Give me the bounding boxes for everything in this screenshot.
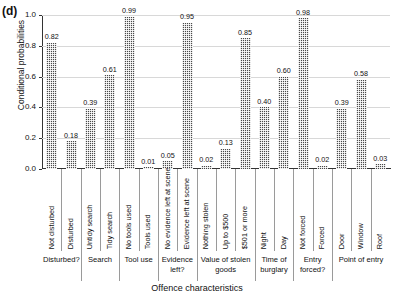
bar	[220, 149, 231, 169]
category-label-cell: Night	[255, 169, 274, 251]
group-label: Value of stolen goods	[197, 255, 255, 274]
category-label: Door	[338, 233, 345, 249]
bar-value-label: 0.39	[327, 99, 357, 106]
y-tick-label: 0.6	[14, 73, 36, 81]
bar-value-label: 0.01	[133, 158, 163, 165]
gridline	[42, 46, 390, 47]
category-separator	[235, 169, 236, 251]
bar-value-label: 0.85	[230, 29, 260, 36]
group-separator	[293, 169, 294, 281]
category-label-cell: Evidence left at scene	[177, 169, 196, 251]
group-label: Tool use	[119, 255, 158, 265]
y-axis-title: Conditional probabilities	[16, 0, 26, 140]
y-tick-label: 0.2	[14, 134, 36, 142]
category-label-band: Not disturbedDisturbedUntidy searchTidy …	[42, 169, 391, 251]
category-separator	[351, 169, 352, 251]
bar-value-label: 0.99	[114, 7, 144, 14]
plot-area: 0.820.180.390.610.990.010.050.950.020.13…	[42, 15, 390, 169]
bar	[124, 17, 135, 169]
category-label-cell: Up to $500	[216, 169, 235, 251]
category-separator	[371, 169, 372, 251]
bar-value-label: 0.58	[346, 70, 376, 77]
category-separator	[216, 169, 217, 251]
category-label: Disturbed	[67, 218, 74, 249]
group-label: Search	[81, 255, 120, 265]
x-axis-title: Offence characteristics	[0, 283, 394, 293]
category-label-cell: $501 or more	[235, 169, 254, 251]
category-label: Tidy search	[106, 212, 113, 249]
bar-value-label: 0.18	[56, 132, 86, 139]
bar-value-label: 0.82	[37, 33, 67, 40]
category-label: Untidy search	[86, 204, 93, 249]
group-separator	[119, 169, 120, 281]
category-label: No tools used	[125, 204, 132, 249]
category-label-cell: Tools used	[139, 169, 158, 251]
category-label: No evidence left at scene	[164, 167, 171, 249]
category-label-cell: Day	[274, 169, 293, 251]
category-label: Tools used	[144, 214, 151, 249]
bar	[278, 77, 289, 169]
category-separator	[313, 169, 314, 251]
bar-value-label: 0.02	[307, 156, 337, 163]
category-label-cell: Roof	[371, 169, 390, 251]
bar	[182, 23, 193, 169]
group-label: Time of burglary	[255, 255, 294, 274]
gridline	[42, 15, 390, 16]
category-label-cell: Tidy search	[100, 169, 119, 251]
category-label-cell: Door	[332, 169, 351, 251]
bar	[336, 109, 347, 169]
bar-value-label: 0.13	[211, 139, 241, 146]
y-tick-label: 0.4	[14, 103, 36, 111]
category-label: Night	[260, 232, 267, 249]
bar-value-label: 0.39	[75, 99, 105, 106]
category-label-cell: Disturbed	[61, 169, 80, 251]
group-separator	[255, 169, 256, 281]
category-label: Day	[280, 236, 287, 249]
category-label-cell: Untidy search	[81, 169, 100, 251]
category-label-cell: No tools used	[119, 169, 138, 251]
group-label: Entry forced?	[293, 255, 332, 274]
bar	[46, 43, 57, 169]
category-label: Nothing stolen	[202, 202, 209, 249]
group-label: Evidence left?	[158, 255, 197, 274]
group-separator	[332, 169, 333, 281]
category-label: Window	[357, 223, 364, 249]
y-tick-label: 0.0	[14, 165, 36, 173]
category-label-cell: Window	[351, 169, 370, 251]
bar-value-label: 0.02	[191, 156, 221, 163]
category-label-cell: Not disturbed	[42, 169, 61, 251]
group-separator	[158, 169, 159, 281]
bar-value-label: 0.98	[288, 9, 318, 16]
category-label-cell: Forced	[313, 169, 332, 251]
category-label-cell: Not forced	[293, 169, 312, 251]
y-tick-label: 0.8	[14, 42, 36, 50]
category-label: $501 or more	[241, 206, 248, 249]
bar-value-label: 0.40	[249, 98, 279, 105]
category-label-cell: Nothing stolen	[197, 169, 216, 251]
group-label: Disturbed?	[42, 255, 81, 265]
category-separator	[100, 169, 101, 251]
category-label: Forced	[318, 226, 325, 249]
group-separator	[197, 169, 198, 281]
y-tick-label: 1.0	[14, 11, 36, 19]
bar	[298, 18, 309, 169]
group-label-band: Disturbed?SearchTool useEvidence left?Va…	[42, 251, 391, 281]
bar-value-label: 0.03	[365, 155, 394, 162]
category-separator	[177, 169, 178, 251]
bar	[66, 141, 77, 169]
category-separator	[61, 169, 62, 251]
figure-panel-d: (d) Conditional probabilities 0.00.20.40…	[0, 0, 394, 302]
category-separator	[274, 169, 275, 251]
gridline	[42, 77, 390, 78]
category-label: Roof	[376, 234, 383, 249]
bar-value-label: 0.60	[269, 67, 299, 74]
category-label: Evidence left at scene	[183, 178, 190, 249]
group-separator	[81, 169, 82, 281]
bar	[259, 107, 270, 169]
bar	[85, 109, 96, 169]
category-label: Not disturbed	[48, 206, 55, 249]
bar	[104, 75, 115, 169]
category-separator	[139, 169, 140, 251]
category-label-cell: No evidence left at scene	[158, 169, 177, 251]
bar-value-label: 0.95	[172, 13, 202, 20]
